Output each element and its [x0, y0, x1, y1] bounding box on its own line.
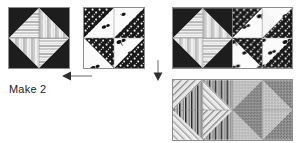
diagram-canvas: Make 2 — [0, 0, 301, 143]
arrow-left-to-make-two — [62, 70, 94, 82]
arrow-down-icon — [152, 60, 164, 82]
pinwheel-block-striped — [8, 7, 70, 69]
assembled-top-row-art — [173, 8, 292, 68]
pinwheel-striped-art — [9, 8, 69, 68]
assembled-bottom-row — [172, 79, 293, 141]
make-two-label: Make 2 — [9, 83, 46, 95]
arrow-left-icon — [62, 70, 94, 82]
assembled-bottom-row-art — [173, 80, 292, 140]
assembled-top-row — [172, 7, 293, 69]
pinwheel-dotted-art — [84, 8, 144, 68]
pinwheel-block-dotted — [83, 7, 145, 69]
arrow-down-to-bottom-unit — [152, 60, 164, 82]
